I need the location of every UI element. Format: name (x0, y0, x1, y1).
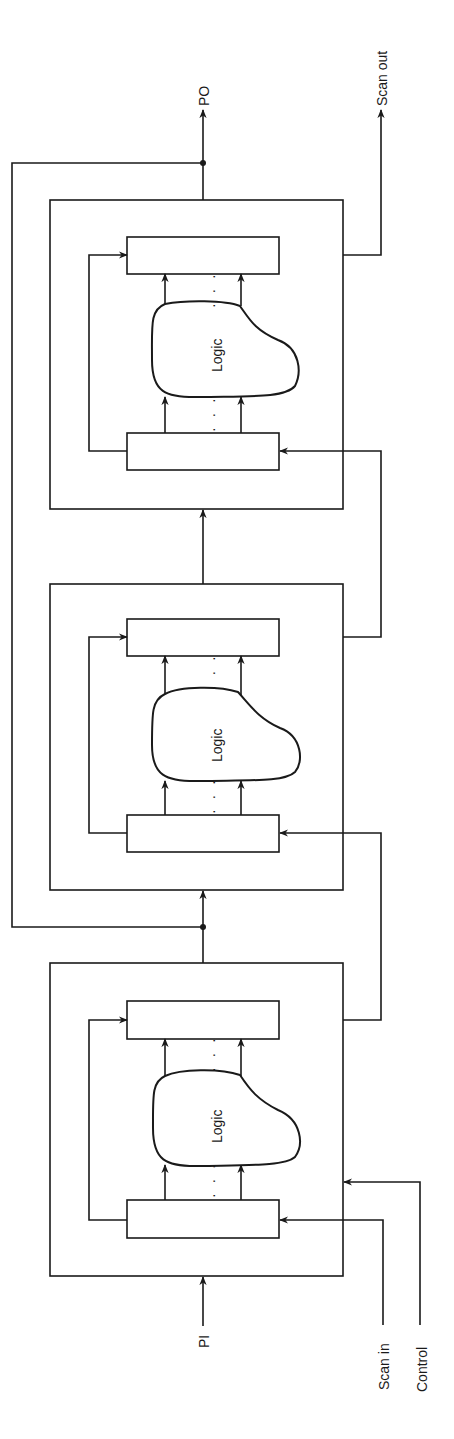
stage-1-logic-label: Logic (209, 1110, 225, 1143)
stage-2-input-register (127, 815, 279, 852)
po-label: PO (196, 86, 212, 106)
scan-in-label: Scan in (376, 1343, 392, 1390)
stage-3-ellipsis-top: · · · (205, 271, 221, 308)
stage-2-ellipsis-top: · · · (205, 653, 221, 690)
stage-2-logic-label: Logic (209, 729, 225, 762)
stage-3-ellipsis-bottom: · · · (205, 395, 221, 432)
stage-1-output-register (127, 1001, 279, 1039)
stage-3-block: Logic · · · · · · (50, 200, 343, 509)
pi-label: PI (196, 1335, 212, 1348)
stage-1-input-register (127, 1200, 279, 1238)
stage-1-block: Logic · · · · · · (50, 963, 343, 1276)
stage-2-output-register (127, 619, 279, 656)
scan-chain-diagram: PO Scan out Logic · · · · · · Logic · (0, 0, 454, 1439)
scan-out-label: Scan out (374, 51, 390, 106)
primary-input: PI (196, 1277, 212, 1348)
stage-1-ellipsis-top: · · · (205, 1035, 221, 1072)
stage-3-input-register (127, 433, 279, 470)
stage-3-output-register (127, 237, 279, 274)
primary-output: PO (196, 86, 212, 200)
stage-1-ellipsis-bottom: · · · (205, 1161, 221, 1198)
stage-2-ellipsis-bottom: · · · (205, 777, 221, 814)
stage-3-logic-label: Logic (209, 339, 225, 372)
control-label: Control (414, 1347, 430, 1392)
stage-2-block: Logic · · · · · · (50, 584, 343, 890)
